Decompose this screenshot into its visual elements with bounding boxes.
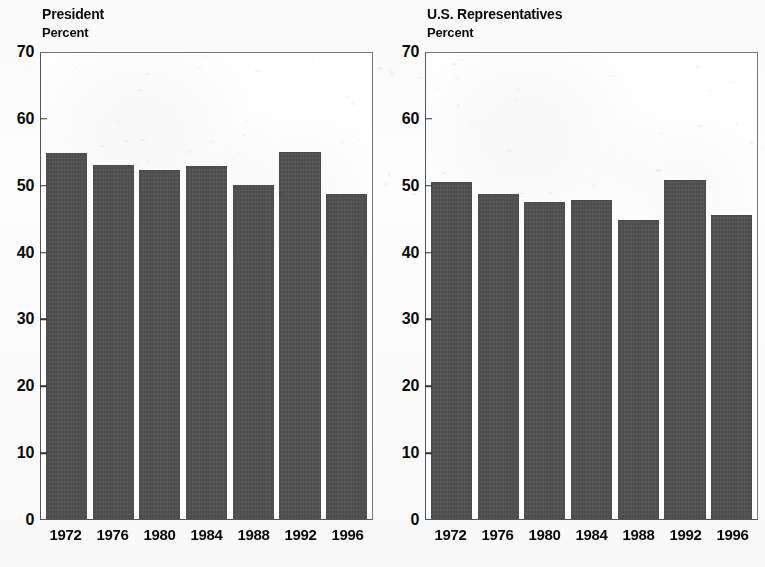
x-tick-label-1988: 1988 <box>230 526 277 543</box>
x-tick-label-1984: 1984 <box>183 526 230 543</box>
y-tick-mark-30 <box>40 319 47 321</box>
bar-slot <box>43 53 90 519</box>
y-tick-label-20: 20 <box>0 377 34 395</box>
bar-slot <box>428 53 475 519</box>
bar-1976[interactable] <box>478 194 519 519</box>
plot-area-president <box>40 52 373 520</box>
x-tick-label-1996: 1996 <box>709 526 756 543</box>
y-tick-label-60: 60 <box>385 110 419 128</box>
y-tick-mark-50 <box>40 185 47 187</box>
y-tick-label-40: 40 <box>0 244 34 262</box>
bar-slot <box>708 53 755 519</box>
figure-container: President Percent 0102030405060701972197… <box>0 0 765 567</box>
y-tick-label-40: 40 <box>385 244 419 262</box>
y-tick-label-10: 10 <box>385 444 419 462</box>
bar-1984[interactable] <box>571 200 612 519</box>
y-tick-mark-10 <box>425 452 432 454</box>
bar-slot <box>568 53 615 519</box>
y-tick-label-60: 60 <box>0 110 34 128</box>
y-tick-mark-40 <box>40 252 47 254</box>
y-tick-mark-60 <box>425 118 432 120</box>
bar-1988[interactable] <box>233 185 274 519</box>
chart-title-president: President <box>42 6 104 22</box>
x-tick-label-1972: 1972 <box>427 526 474 543</box>
bar-slot <box>136 53 183 519</box>
y-tick-label-70: 70 <box>385 43 419 61</box>
bar-1992[interactable] <box>279 152 320 519</box>
chart-ylabel-us-representatives: Percent <box>427 25 473 40</box>
y-tick-label-30: 30 <box>0 310 34 328</box>
x-tick-label-1992: 1992 <box>277 526 324 543</box>
y-tick-label-10: 10 <box>0 444 34 462</box>
bar-1992[interactable] <box>664 180 705 519</box>
bar-slot <box>277 53 324 519</box>
x-tick-label-1984: 1984 <box>568 526 615 543</box>
bar-slot <box>90 53 137 519</box>
y-tick-label-50: 50 <box>0 177 34 195</box>
y-tick-mark-20 <box>40 386 47 388</box>
y-tick-mark-60 <box>40 118 47 120</box>
bar-slot <box>615 53 662 519</box>
x-tick-label-1980: 1980 <box>136 526 183 543</box>
bar-slot <box>521 53 568 519</box>
y-tick-mark-50 <box>425 185 432 187</box>
bar-1996[interactable] <box>326 194 367 519</box>
bar-1980[interactable] <box>139 170 180 520</box>
bar-1980[interactable] <box>524 202 565 519</box>
chart-ylabel-president: Percent <box>42 25 88 40</box>
bar-1976[interactable] <box>93 165 134 519</box>
plot-area-us-representatives <box>425 52 758 520</box>
x-tick-label-1972: 1972 <box>42 526 89 543</box>
bar-1972[interactable] <box>431 182 472 519</box>
y-tick-label-0: 0 <box>0 511 34 529</box>
bar-1984[interactable] <box>186 166 227 519</box>
y-tick-label-30: 30 <box>385 310 419 328</box>
bar-slot <box>183 53 230 519</box>
bar-1972[interactable] <box>46 153 87 519</box>
y-tick-mark-30 <box>425 319 432 321</box>
bar-1996[interactable] <box>711 215 752 519</box>
bar-slot <box>323 53 370 519</box>
y-tick-mark-40 <box>425 252 432 254</box>
x-tick-label-1988: 1988 <box>615 526 662 543</box>
bar-1988[interactable] <box>618 220 659 519</box>
bar-group-president <box>43 53 370 519</box>
chart-panel-us-representatives: U.S. Representatives Percent 01020304050… <box>380 0 765 567</box>
chart-title-us-representatives: U.S. Representatives <box>427 6 562 22</box>
x-tick-label-1996: 1996 <box>324 526 371 543</box>
y-tick-label-50: 50 <box>385 177 419 195</box>
y-tick-mark-10 <box>40 452 47 454</box>
x-tick-label-1992: 1992 <box>662 526 709 543</box>
bar-slot <box>230 53 277 519</box>
bar-group-us-representatives <box>428 53 755 519</box>
y-tick-mark-20 <box>425 386 432 388</box>
bar-slot <box>662 53 709 519</box>
y-tick-label-70: 70 <box>0 43 34 61</box>
chart-panel-president: President Percent 0102030405060701972197… <box>0 0 385 567</box>
x-tick-label-1976: 1976 <box>89 526 136 543</box>
y-tick-label-0: 0 <box>385 511 419 529</box>
y-tick-label-20: 20 <box>385 377 419 395</box>
bar-slot <box>475 53 522 519</box>
x-tick-label-1980: 1980 <box>521 526 568 543</box>
x-tick-label-1976: 1976 <box>474 526 521 543</box>
